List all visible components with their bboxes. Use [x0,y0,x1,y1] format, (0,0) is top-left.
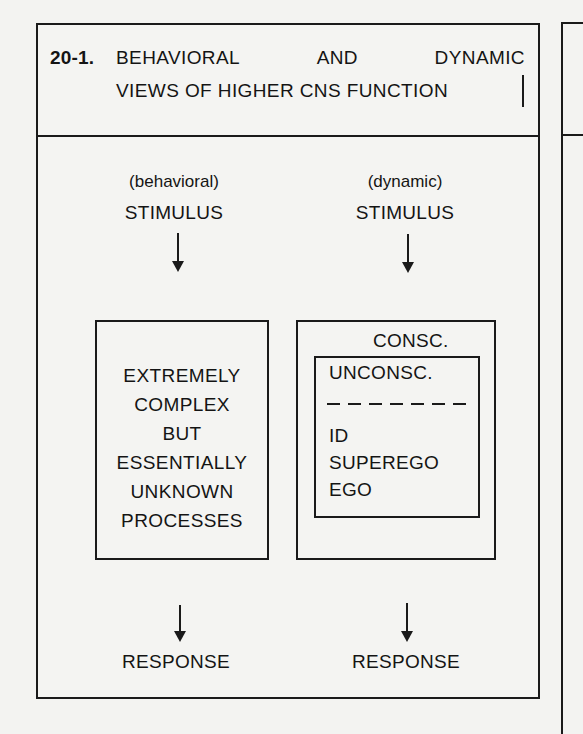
adjacent-figure-divider [563,134,583,136]
behavioral-process-box: EXTREMELY COMPLEX BUT ESSENTIALLY UNKNOW… [95,320,269,560]
psyche-components: ID SUPEREGO EGO [329,422,439,503]
title-rule [522,75,524,107]
component-id: ID [329,422,439,449]
title-word: BEHAVIORAL [116,47,240,69]
dynamic-stimulus: STIMULUS [353,202,457,224]
behavioral-process-text: EXTREMELY COMPLEX BUT ESSENTIALLY UNKNOW… [97,361,267,535]
behavioral-label: (behavioral) [122,172,226,192]
unconscious-divider-dashes [327,403,466,405]
component-superego: SUPEREGO [329,449,439,476]
figure-frame: 20-1. BEHAVIORAL AND DYNAMIC VIEWS OF HI… [36,23,540,699]
process-line: ESSENTIALLY [97,448,267,477]
arrow-down-icon [168,231,188,273]
dynamic-label: (dynamic) [353,172,457,192]
behavioral-stimulus: STIMULUS [122,202,226,224]
arrow-down-icon [398,232,418,274]
arrow-down-icon [397,601,417,643]
dynamic-response: RESPONSE [348,651,464,673]
conscious-label: CONSC. [373,330,449,352]
unconscious-label: UNCONSC. [329,362,433,384]
process-line: COMPLEX [97,390,267,419]
figure-header: 20-1. BEHAVIORAL AND DYNAMIC VIEWS OF HI… [38,25,538,137]
adjacent-figure-edge [561,22,583,734]
process-line: EXTREMELY [97,361,267,390]
title-word: DYNAMIC [435,47,525,69]
process-line: BUT [97,419,267,448]
process-line: PROCESSES [97,506,267,535]
figure-title-line-1: BEHAVIORAL AND DYNAMIC [116,47,525,69]
figure-title-line-2: VIEWS OF HIGHER CNS FUNCTION [116,80,448,102]
behavioral-response: RESPONSE [118,651,234,673]
title-word: AND [317,47,358,69]
figure-number: 20-1. [50,47,94,69]
component-ego: EGO [329,476,439,503]
process-line: UNKNOWN [97,477,267,506]
dynamic-conscious-box: CONSC. UNCONSC. ID SUPEREGO EGO [296,320,496,560]
arrow-down-icon [170,603,190,645]
dynamic-unconscious-box: UNCONSC. ID SUPEREGO EGO [314,356,480,518]
